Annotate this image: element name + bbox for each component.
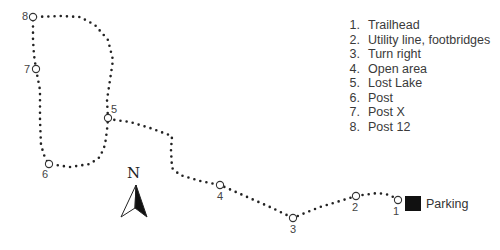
legend-label: Post X	[368, 105, 405, 120]
legend-item: 6.Post	[346, 91, 490, 106]
legend-label: Lost Lake	[368, 76, 422, 91]
waypoint-marker	[45, 160, 52, 167]
waypoint-marker	[394, 196, 401, 203]
legend-number: 4.	[346, 62, 368, 77]
legend-label: Utility line, footbridges	[368, 33, 490, 48]
legend-number: 5.	[346, 76, 368, 91]
waypoint-label: 5	[111, 104, 117, 115]
legend: 1.Trailhead 2.Utility line, footbridges …	[346, 18, 490, 134]
waypoint-label: 3	[290, 224, 296, 235]
parking-label: Parking	[426, 197, 468, 211]
parking-icon	[405, 196, 421, 211]
legend-number: 8.	[346, 120, 368, 135]
legend-item: 3.Turn right	[346, 47, 490, 62]
legend-number: 1.	[346, 18, 368, 33]
waypoint-marker	[104, 114, 111, 121]
waypoint-label: 4	[217, 191, 223, 202]
waypoint-marker	[32, 65, 39, 72]
north-arrow-icon	[121, 185, 147, 217]
waypoint-marker	[289, 214, 296, 221]
legend-item: 7.Post X	[346, 105, 490, 120]
legend-label: Post 12	[368, 120, 410, 135]
legend-number: 2.	[346, 33, 368, 48]
waypoint-marker	[352, 192, 359, 199]
waypoint-marker	[216, 181, 223, 188]
legend-item: 8.Post 12	[346, 120, 490, 135]
legend-item: 4.Open area	[346, 62, 490, 77]
legend-label: Trailhead	[368, 18, 420, 33]
legend-label: Post	[368, 91, 393, 106]
waypoint-label: 8	[22, 11, 28, 22]
legend-label: Turn right	[368, 47, 421, 62]
legend-number: 7.	[346, 105, 368, 120]
legend-label: Open area	[368, 62, 427, 77]
waypoint-marker	[29, 13, 36, 20]
north-label: N	[127, 164, 140, 182]
legend-item: 1.Trailhead	[346, 18, 490, 33]
legend-number: 6.	[346, 91, 368, 106]
legend-item: 2.Utility line, footbridges	[346, 33, 490, 48]
legend-number: 3.	[346, 47, 368, 62]
legend-item: 5.Lost Lake	[346, 76, 490, 91]
trail-path	[33, 16, 398, 218]
waypoint-label: 7	[24, 64, 30, 75]
waypoint-label: 6	[42, 169, 48, 180]
waypoint-label: 1	[393, 206, 399, 217]
waypoint-label: 2	[352, 202, 358, 213]
